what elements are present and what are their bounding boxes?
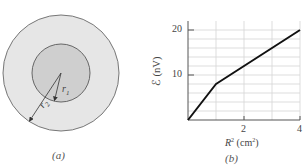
x-label-unit: (cm [234,137,252,148]
r1-label: r1 [62,84,69,97]
caption-a: (a) [52,150,65,161]
xtick-4: 4 [297,124,302,134]
r1-sub: 1 [66,89,70,97]
caption-b: (b) [225,153,238,164]
y-axis-label: ℰ (nV) [152,57,163,86]
ytick-20: 20 [172,24,182,34]
x-label-close: ) [255,137,258,148]
panel-b-chart [188,21,300,120]
xtick-2: 2 [241,124,246,134]
x-axis-label: R2 (cm2) [225,137,259,148]
ytick-10: 10 [172,69,182,79]
panel-a [3,15,119,131]
